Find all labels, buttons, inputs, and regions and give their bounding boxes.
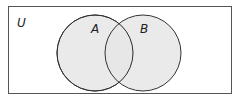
universe-label: U	[17, 16, 26, 30]
set-b-label: B	[140, 22, 148, 36]
venn-diagram: U A B	[0, 0, 242, 100]
set-a-label: A	[90, 22, 99, 36]
